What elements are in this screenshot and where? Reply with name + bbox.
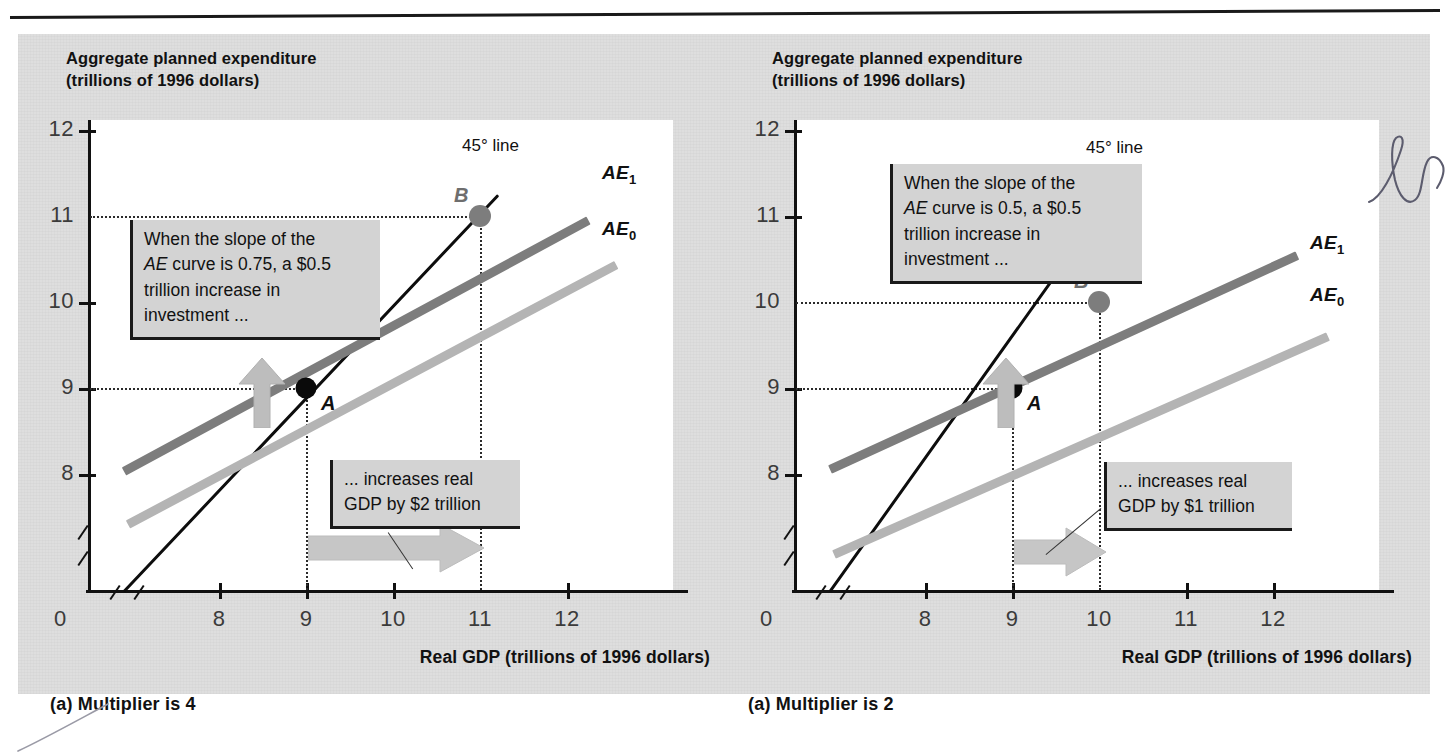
callout-result-right: ... increases real GDP by $1 trillion	[1104, 462, 1292, 531]
x-axis-title-right: Real GDP (trillions of 1996 dollars)	[1122, 646, 1412, 669]
ae0-label-sub-right: 0	[1337, 294, 1345, 309]
x-tick-label-11-right: 11	[1174, 606, 1198, 632]
guide-h-11-left	[90, 216, 482, 218]
x-tick-12-right	[1273, 583, 1276, 599]
x-tick-label-10-right: 10	[1086, 606, 1111, 632]
y-tick-label-12-right: 12	[755, 116, 780, 142]
y-axis-title-line2: (trillions of 1996 dollars)	[66, 70, 496, 92]
y-tick-label-10-left: 10	[49, 288, 74, 314]
panel-caption-right: (a) Multiplier is 2	[748, 694, 894, 715]
y-axis-break-slash-1-left	[77, 525, 88, 540]
callout-slope-ae-italic-left: AE	[144, 254, 167, 274]
y-tick-label-8-right: 8	[767, 460, 780, 486]
x-axis-break-slash-2-right	[839, 585, 850, 600]
ae1-label-left: AE1	[602, 162, 637, 187]
x-tick-label-11-left: 11	[468, 606, 492, 632]
point-b-label-left: B	[454, 184, 468, 207]
callout-slope-line1-right: When the slope of the	[904, 171, 1132, 196]
y-tick-8-right	[785, 474, 802, 477]
chart-panel-a-multiplier-2: Aggregate planned expenditure (trillions…	[724, 34, 1430, 694]
point-a-label-left: A	[321, 392, 335, 415]
callout-slope-line2-rest-left: curve is 0.75, a $0.5	[167, 254, 331, 274]
callout-slope-left: When the slope of the AE curve is 0.75, …	[130, 220, 380, 340]
callout-result-left: ... increases real GDP by $2 trillion	[330, 460, 520, 529]
x-axis-title-left: Real GDP (trillions of 1996 dollars)	[420, 646, 710, 669]
y-axis-title-line1-right: Aggregate planned expenditure	[772, 48, 1202, 70]
y-axis-title-right: Aggregate planned expenditure (trillions…	[772, 48, 1202, 92]
callout-slope-line1-left: When the slope of the	[144, 227, 370, 252]
chart-panel-a-multiplier-4: Aggregate planned expenditure (trillions…	[18, 34, 724, 694]
x-tick-10-left	[393, 583, 396, 599]
line-45-label-right: 45° line	[1086, 138, 1143, 158]
y-tick-11-right	[785, 216, 802, 219]
plot-area-left: 12 11 10 9 8 8 9 10 11 12 0	[88, 120, 673, 592]
callout-slope-line2-right: AE curve is 0.5, a $0.5	[904, 196, 1132, 221]
point-b-marker-left[interactable]	[469, 205, 491, 227]
y-tick-label-8-left: 8	[61, 460, 74, 486]
guide-h-10-right	[796, 302, 1099, 304]
x-axis-break-slash-2-left	[133, 585, 144, 600]
callout-slope-line2-left: AE curve is 0.75, a $0.5	[144, 252, 370, 277]
origin-label-left: 0	[54, 606, 66, 632]
y-tick-label-11-right: 11	[756, 202, 780, 228]
callout-slope-right: When the slope of the AE curve is 0.5, a…	[890, 164, 1142, 284]
x-tick-11-right	[1186, 583, 1189, 599]
ae0-label-text-right: AE	[1310, 284, 1337, 305]
y-tick-label-9-right: 9	[767, 374, 780, 400]
ae1-label-text-right: AE	[1310, 232, 1337, 253]
page-top-rule	[10, 9, 1440, 19]
callout-slope-line2-rest-right: curve is 0.5, a $0.5	[927, 198, 1081, 218]
ae0-label-text-left: AE	[602, 218, 629, 239]
gdp-increase-arrow-right	[1014, 526, 1108, 578]
x-tick-label-10-left: 10	[380, 606, 405, 632]
callout-result-line2-right: GDP by $1 trillion	[1118, 494, 1282, 519]
point-a-marker-left[interactable]	[296, 378, 317, 399]
x-tick-8-left	[219, 583, 222, 599]
investment-increase-arrow-right	[980, 356, 1032, 428]
callout-slope-line4-left: investment ...	[144, 303, 370, 328]
x-axis-line-right	[792, 590, 1394, 593]
ae1-label-text-left: AE	[602, 162, 629, 183]
callout-slope-line4-right: investment ...	[904, 247, 1132, 272]
y-tick-label-10-right: 10	[755, 288, 780, 314]
x-axis-line-left	[86, 590, 688, 593]
y-tick-label-11-left: 11	[50, 202, 74, 228]
y-tick-label-9-left: 9	[61, 374, 74, 400]
y-axis-break-slash-2-left	[77, 551, 88, 566]
x-tick-12-left	[567, 583, 570, 599]
figure-panel: Aggregate planned expenditure (trillions…	[18, 34, 1430, 694]
y-axis-title-line1: Aggregate planned expenditure	[66, 48, 496, 70]
ae1-label-right: AE1	[1310, 232, 1345, 257]
ae0-label-sub-left: 0	[629, 228, 637, 243]
callout-slope-line3-left: trillion increase in	[144, 278, 370, 303]
y-axis-line-left	[88, 120, 91, 592]
y-tick-label-12-left: 12	[49, 116, 74, 142]
callout-slope-ae-italic-right: AE	[904, 198, 927, 218]
x-tick-label-9-right: 9	[1006, 606, 1019, 632]
ae1-label-sub-right: 1	[1337, 242, 1345, 257]
point-b-marker-right[interactable]	[1088, 291, 1110, 313]
investment-increase-arrow-left	[236, 356, 288, 428]
y-tick-12-left	[79, 130, 96, 133]
y-tick-12-right	[785, 130, 802, 133]
callout-slope-line3-right: trillion increase in	[904, 222, 1132, 247]
x-axis-break-slash-1-right	[815, 585, 826, 600]
x-tick-8-right	[925, 583, 928, 599]
y-tick-8-left	[79, 474, 96, 477]
y-axis-break-slash-2-right	[783, 551, 794, 566]
line-45-label-left: 45° line	[462, 136, 519, 156]
origin-label-right: 0	[760, 606, 772, 632]
callout-result-line2-left: GDP by $2 trillion	[344, 492, 510, 517]
x-tick-label-12-left: 12	[554, 606, 579, 632]
panel-caption-left: (a) Multiplier is 4	[50, 694, 196, 715]
ae1-label-sub-left: 1	[629, 172, 637, 187]
ae0-label-right: AE0	[1310, 284, 1345, 309]
ae0-label-left: AE0	[602, 218, 637, 243]
y-axis-line-right	[794, 120, 797, 592]
x-tick-label-8-left: 8	[213, 606, 226, 632]
callout-result-line1-right: ... increases real	[1118, 469, 1282, 494]
plot-area-right: 12 11 10 9 8 8 9 10 11 12 0	[794, 120, 1379, 592]
x-tick-label-12-right: 12	[1260, 606, 1285, 632]
callout-result-line1-left: ... increases real	[344, 467, 510, 492]
y-axis-break-slash-1-right	[783, 525, 794, 540]
